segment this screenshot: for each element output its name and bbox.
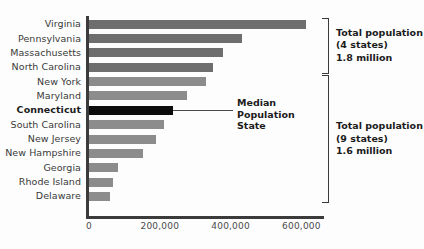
table-row: Maryland (0, 89, 424, 103)
bar-new-york (89, 77, 206, 86)
table-row: New York (0, 75, 424, 89)
bar-label-rhode-island: Rhode Island (0, 175, 81, 189)
bracket-bottom-9-states (322, 75, 329, 203)
bracket-bottom-annotation: Total population (9 states) 1.6 million (336, 120, 423, 158)
bar-label-south-carolina: South Carolina (0, 118, 81, 132)
bar-pennsylvania (89, 34, 242, 43)
bar-label-connecticut: Connecticut (0, 103, 81, 117)
bar-delaware (89, 192, 110, 201)
bar-label-new-york: New York (0, 75, 81, 89)
bar-label-new-hampshire: New Hampshire (0, 146, 81, 160)
bar-label-new-jersey: New Jersey (0, 132, 81, 146)
bar-label-north-carolina: North Carolina (0, 60, 81, 74)
bar-maryland (89, 91, 187, 100)
median-note-line-1: Median (237, 97, 295, 109)
x-tick-200000: 200,000 (140, 221, 179, 231)
bar-label-delaware: Delaware (0, 189, 81, 203)
bar-label-pennsylvania: Pennsylvania (0, 32, 81, 46)
bar-connecticut (89, 106, 173, 115)
median-leader-line (173, 110, 233, 111)
x-tick-0: 0 (86, 221, 92, 231)
table-row: Delaware (0, 189, 424, 203)
bar-label-virginia: Virginia (0, 17, 81, 31)
bar-rhode-island (89, 178, 113, 187)
table-row: Rhode Island (0, 175, 424, 189)
bracket-top-4-states (322, 18, 329, 74)
bracket-bottom-line-3: 1.6 million (336, 145, 423, 158)
bracket-bottom-line-1: Total population (336, 120, 423, 133)
x-axis-line (86, 216, 324, 219)
table-row: Georgia (0, 161, 424, 175)
bar-virginia (89, 20, 306, 29)
x-tick-400000: 400,000 (211, 221, 250, 231)
bracket-bottom-line-2: (9 states) (336, 133, 423, 146)
bar-new-jersey (89, 135, 156, 144)
x-tick-600000: 600,000 (282, 221, 321, 231)
bar-massachusetts (89, 48, 223, 57)
median-note-line-2: Population (237, 109, 295, 121)
bar-new-hampshire (89, 149, 143, 158)
bar-label-maryland: Maryland (0, 89, 81, 103)
bar-north-carolina (89, 63, 213, 72)
bracket-top-line-3: 1.8 million (336, 52, 423, 65)
bar-south-carolina (89, 120, 164, 129)
median-note-line-3: State (237, 120, 295, 132)
bar-label-georgia: Georgia (0, 161, 81, 175)
bracket-top-line-2: (4 states) (336, 39, 423, 52)
bracket-top-line-1: Total population (336, 27, 423, 40)
median-population-state-annotation: Median Population State (237, 97, 295, 132)
bracket-top-annotation: Total population (4 states) 1.8 million (336, 27, 423, 65)
population-bar-chart: VirginiaPennsylvaniaMassachusettsNorth C… (0, 0, 424, 249)
bar-label-massachusetts: Massachusetts (0, 46, 81, 60)
bar-georgia (89, 163, 118, 172)
